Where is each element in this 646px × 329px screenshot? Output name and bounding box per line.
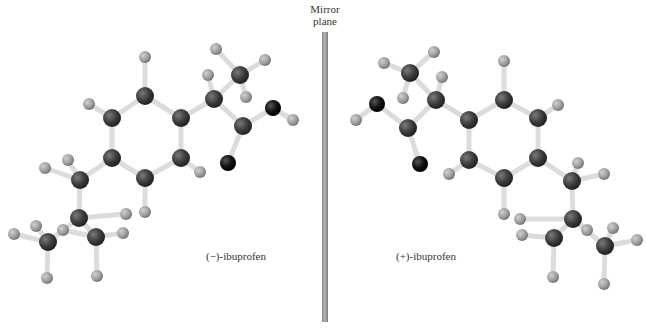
hydrogen-atom — [210, 43, 222, 55]
hydrogen-atom — [139, 206, 151, 218]
hydrogen-atom — [498, 208, 510, 220]
carbon-atom — [401, 64, 419, 82]
right-molecule-label: (+)-ibuprofen — [396, 250, 456, 262]
left-molecule-label: (−)-ibuprofen — [206, 250, 266, 262]
hydrogen-atom — [547, 271, 559, 283]
hydrogen-atom — [117, 227, 129, 239]
hydrogen-atom — [41, 272, 53, 284]
carbon-atom — [172, 109, 190, 127]
carbon-atom — [136, 87, 154, 105]
hydrogen-atom — [378, 57, 390, 69]
carbon-atom — [545, 229, 563, 247]
hydrogen-atom — [514, 213, 526, 225]
carbon-atom — [234, 117, 252, 135]
hydrogen-atom — [516, 229, 528, 241]
carbon-atom — [564, 210, 582, 228]
carbon-atom — [529, 149, 547, 167]
carbon-atom — [596, 237, 614, 255]
oxygen-atom — [412, 156, 428, 172]
carbon-atom — [231, 66, 249, 84]
hydrogen-atom — [8, 228, 20, 240]
carbon-atom — [103, 109, 121, 127]
hydrogen-atom — [39, 162, 51, 174]
hydrogen-atom — [240, 91, 252, 103]
chiral-carbon-atom — [427, 91, 445, 109]
carbon-atom — [399, 119, 417, 137]
oxygen-atom — [369, 96, 385, 112]
carbon-atom — [103, 149, 121, 167]
oxygen-atom — [265, 100, 281, 116]
hydrogen-atom — [287, 114, 299, 126]
carbon-atom — [529, 109, 547, 127]
hydrogen-atom — [139, 51, 151, 63]
hydrogen-atom — [498, 55, 510, 67]
carbon-atom — [460, 111, 478, 129]
enantiomer-figure: Mirror plane — [0, 0, 646, 329]
hydrogen-atom — [57, 224, 69, 236]
hydrogen-atom — [62, 154, 74, 166]
hydrogen-atom — [397, 92, 409, 104]
carbon-atom — [172, 149, 190, 167]
hydrogen-atom — [202, 69, 214, 81]
carbon-atom — [495, 91, 513, 109]
hydrogen-atom — [83, 98, 95, 110]
hydrogen-atom — [30, 220, 42, 232]
oxygen-atom — [220, 155, 236, 171]
left-molecule-atoms — [8, 43, 299, 284]
chiral-carbon-atom — [205, 90, 223, 108]
ball-and-stick-models — [0, 0, 646, 329]
carbon-atom — [71, 171, 89, 189]
carbon-atom — [563, 172, 581, 190]
carbon-atom — [460, 151, 478, 169]
hydrogen-atom — [436, 71, 448, 83]
carbon-atom — [495, 169, 513, 187]
hydrogen-atom — [350, 114, 362, 126]
carbon-atom — [87, 228, 105, 246]
hydrogen-atom — [552, 99, 564, 111]
hydrogen-atom — [572, 157, 584, 169]
hydrogen-atom — [259, 54, 271, 66]
hydrogen-atom — [581, 224, 593, 236]
hydrogen-atom — [443, 168, 455, 180]
hydrogen-atom — [631, 234, 643, 246]
hydrogen-atom — [607, 222, 619, 234]
hydrogen-atom — [91, 270, 103, 282]
right-molecule-atoms — [350, 46, 643, 290]
hydrogen-atom — [120, 208, 132, 220]
hydrogen-atom — [598, 168, 610, 180]
hydrogen-atom — [598, 278, 610, 290]
carbon-atom — [39, 233, 57, 251]
hydrogen-atom — [428, 46, 440, 58]
carbon-atom — [70, 209, 88, 227]
carbon-atom — [136, 169, 154, 187]
hydrogen-atom — [194, 166, 206, 178]
